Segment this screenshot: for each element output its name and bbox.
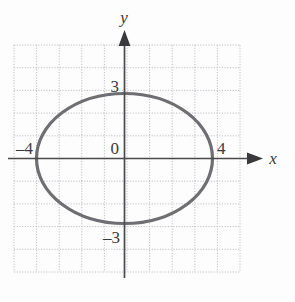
x-intercept-positive-label: 4 [217, 139, 226, 158]
x-intercept-negative-label: –4 [15, 139, 34, 158]
y-intercept-positive-label: 3 [111, 77, 120, 96]
figure-canvas: x y 3 –3 0 –4 4 [0, 0, 295, 302]
y-axis-label: y [118, 8, 128, 27]
origin-label: 0 [111, 139, 120, 158]
x-axis-label: x [268, 149, 277, 168]
ellipse-figure: x y 3 –3 0 –4 4 [0, 0, 295, 302]
y-intercept-negative-label: –3 [102, 228, 120, 247]
